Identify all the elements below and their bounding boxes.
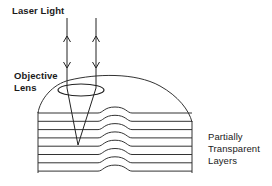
layers-label-line-2: Transparent (208, 143, 260, 155)
laser-light-label: Laser Light (12, 5, 64, 17)
layer-line (38, 132, 192, 138)
objective-lens-ellipse (58, 84, 104, 96)
right-beam (93, 18, 100, 88)
layer-line (38, 149, 192, 155)
layers-label-line-1: Partially (208, 131, 260, 143)
layer-line (38, 107, 192, 113)
objective-lens-label: Objective Lens (14, 70, 58, 94)
layers-label: Partially Transparent Layers (208, 131, 260, 167)
objective-lens-label-line-2: Lens (14, 82, 58, 94)
layer-line (38, 157, 192, 163)
layers-label-line-3: Layers (208, 155, 260, 167)
optical-storage-diagram: Laser Light Objective Lens Partially Tra… (0, 0, 272, 186)
layer-line (38, 165, 192, 171)
layer-line (38, 115, 192, 121)
focus-ray-left (67, 88, 78, 145)
layer-line (38, 140, 192, 146)
left-beam (64, 18, 71, 88)
layer-line (38, 124, 192, 130)
layer-stack (38, 107, 192, 173)
objective-lens-label-line-1: Objective (14, 70, 58, 82)
